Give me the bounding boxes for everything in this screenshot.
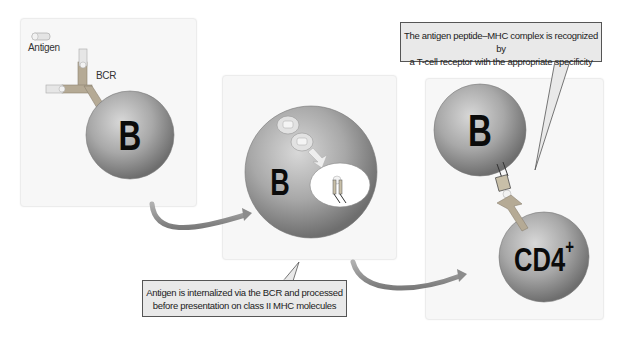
b-cell-3-label: B — [464, 106, 497, 156]
antigen-legend-icon — [32, 33, 50, 40]
tcr-mhc-complex-icon — [495, 162, 528, 231]
callout-internalization-line2: before presentation on class II MHC mole… — [143, 299, 346, 312]
callout-pointer-1 — [283, 262, 299, 281]
arrow-step1-to-step2 — [152, 204, 252, 228]
callout-internalization: Antigen is internalized via the BCR and … — [142, 280, 347, 317]
callout-recognition-line1: The antigen peptide–MHC complex is recog… — [401, 29, 601, 55]
callout-internalization-line1: Antigen is internalized via the BCR and … — [143, 286, 346, 299]
callout-recognition-line2: a T-cell receptor with the appropriate s… — [401, 55, 601, 68]
arrow-step2-to-step3 — [353, 262, 467, 288]
antigen-legend-label: Antigen — [28, 42, 60, 53]
cd4-t-cell-label: CD4+ — [507, 240, 582, 279]
cd4-superscript: + — [565, 236, 574, 258]
callout-recognition: The antigen peptide–MHC complex is recog… — [400, 22, 602, 62]
b-cell-2-label: B — [267, 162, 294, 204]
mhc-compartment-icon — [310, 163, 370, 207]
bcr-receptor-icon — [46, 49, 106, 113]
cd4-label-text: CD4 — [514, 240, 565, 278]
callout-pointer-2 — [535, 61, 570, 170]
bcr-label: BCR — [96, 70, 116, 81]
b-cell-1-label: B — [117, 112, 144, 160]
